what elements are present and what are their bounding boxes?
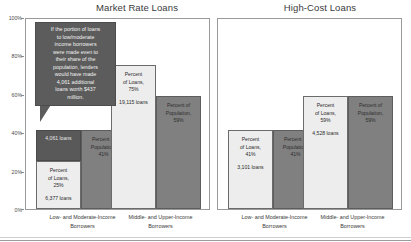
bar-label-line1: Percent of [359,102,382,110]
bar-left-lmi-shortfall-segment[interactable]: 4,061 loans [36,130,81,161]
callout-line-7: would have made [39,71,112,79]
x-category-label-left-mui: Middle- and Upper-Income Borrowers [108,213,213,231]
callout-line-6: population, lenders [39,64,112,72]
y-tickmark-100 [21,18,24,19]
bar-label-line1: Percent [317,102,335,110]
page-rule-secondary [0,237,411,238]
bar-left-lmi-percent-of-loans[interactable]: Percent of Loans, 25% 6,377 loans [36,161,81,209]
y-tickmark-60 [21,95,24,96]
bar-label-line2: of Loans, [315,110,336,118]
callout-line-9: loans worth $437 [39,86,112,94]
bar-loan-count: 3,101 loans [237,164,263,172]
y-tickmark-20 [21,172,24,173]
bar-right-mui-percent-of-population[interactable]: Percent of Population, 59% [348,96,393,209]
y-tick-100: 100% [9,15,22,21]
bar-left-mui-percent-of-population[interactable]: Percent of Population, 59% [156,96,201,209]
callout-line-1: If the portion of loans [39,26,112,34]
y-tickmark-40 [21,133,24,134]
y-tickmark-80 [21,56,24,57]
category-line2: Borrowers [108,222,213,231]
bar-label-line2: Population, [358,110,384,118]
bar-label-line3: 59% [365,117,375,125]
bar-label-line2: Population, [166,110,192,118]
chart-title-market-rate-loans: Market Rate Loans [52,2,222,13]
bar-label-line2: of Loans, [123,79,144,87]
chart-title-high-cost-loans: High-Cost Loans [250,2,390,13]
bar-label-line3: 41% [290,151,300,159]
bar-label-line3: 59% [320,117,330,125]
category-line1: Middle- and Upper-Income [300,213,405,222]
figure-root: Market Rate Loans High-Cost Loans 100% 8… [0,0,411,242]
callout-annotation: If the portion of loans to low/moderate … [35,22,116,106]
bar-label-line1: Percent [242,136,260,144]
page-rule-primary [0,240,411,241]
bar-loan-count: 4,528 loans [312,130,338,138]
bar-label-line1: Percent [125,71,143,79]
bar-label-line3: 75% [128,86,138,94]
callout-line-5: their share of the [39,56,112,64]
shortfall-loan-count: 4,061 loans [45,135,71,143]
callout-line-4: were made even to [39,49,112,57]
bar-group-container-right: Percent of Loans, 41% 3,101 loans Percen… [218,19,401,209]
y-tick-0: 0% [15,207,23,213]
plot-area-high-cost-loans: Percent of Loans, 41% 3,101 loans Percen… [217,18,402,210]
bar-label-line3: 59% [173,117,183,125]
bar-left-mui-percent-of-loans[interactable]: Percent of Loans, 75% 19,115 loans [111,65,156,209]
callout-line-2: to low/moderate [39,34,112,42]
bar-right-lmi-percent-of-loans[interactable]: Percent of Loans, 41% 3,101 loans [228,130,273,209]
bar-label-line2: of Loans, [48,175,69,183]
bar-loan-count: 6,377 loans [45,195,71,203]
callout-line-3: income borrowers [39,41,112,49]
bar-label-line1: Percent [50,167,68,175]
y-axis: 100% 80% 60% 40% 20% 0% [0,18,24,210]
x-category-label-right-mui: Middle- and Upper-Income Borrowers [300,213,405,231]
y-tickmark-0 [21,209,24,210]
category-line1: Middle- and Upper-Income [108,213,213,222]
bar-label-line3: 41% [98,151,108,159]
bar-label-line3: 25% [53,182,63,190]
bar-loan-count: 19,115 loans [119,99,148,107]
bar-label-line2: of Loans, [240,144,261,152]
category-line2: Borrowers [300,222,405,231]
callout-line-8: 4,061 additional [39,79,112,87]
bar-label-line3: 41% [245,151,255,159]
callout-line-10: million. [39,94,112,102]
bar-label-line1: Percent of [167,102,190,110]
bar-right-mui-percent-of-loans[interactable]: Percent of Loans, 59% 4,528 loans [303,96,348,209]
